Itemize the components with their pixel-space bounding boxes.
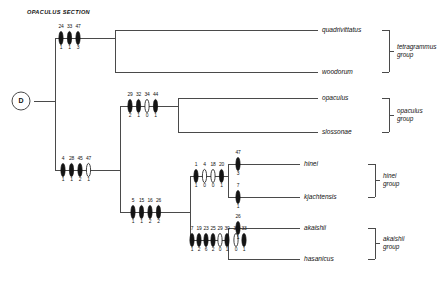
char-num-20: 20 — [215, 162, 229, 167]
group-name-opaculus: opaculus — [397, 107, 423, 114]
group-suffix-opaculus: group — [397, 115, 413, 122]
char-val-26a: 2 — [152, 219, 166, 224]
char-mark-29a — [128, 99, 132, 112]
char-num-kjachtensis-7: 7 — [231, 183, 245, 188]
char-num-47: 47 — [71, 24, 85, 29]
char-num-44: 44 — [149, 92, 163, 97]
char-mark-4a — [61, 163, 65, 176]
char-val-44: 1 — [149, 113, 163, 118]
char-val-33b: 1 — [237, 247, 251, 252]
group-label-hinei: hinei group — [383, 172, 399, 188]
root-node-label: D — [14, 94, 28, 108]
group-suffix-tetragrammus: group — [397, 51, 413, 58]
char-mark-1 — [194, 169, 198, 182]
char-num-26a: 26 — [152, 198, 166, 203]
char-val-hinei-47: 3 — [231, 171, 245, 176]
group-label-tetragrammus: tetragrammus group — [397, 43, 436, 59]
section-title: OPACULUS SECTION — [27, 9, 90, 15]
group-name-akaishii: akaishii — [383, 235, 404, 242]
taxon-label-opaculus: opaculus — [322, 94, 348, 101]
char-mark-25 — [211, 233, 215, 246]
char-val-akaishii-26: 1 — [231, 235, 245, 240]
char-mark-33 — [67, 31, 71, 44]
cladogram-figure: OPACULUS SECTION D 24 33 47 1 1 3 29 32 … — [0, 0, 448, 281]
char-mark-30 — [225, 233, 229, 246]
char-mark-32 — [136, 99, 140, 112]
taxon-label-hasanicus: hasanicus — [304, 255, 334, 262]
cladogram-svg — [0, 0, 448, 281]
char-mark-16 — [148, 205, 152, 218]
char-mark-28 — [69, 163, 73, 176]
char-mark-19 — [197, 233, 201, 246]
char-mark-15 — [139, 205, 143, 218]
taxon-label-slossonae: slossonae — [322, 128, 352, 135]
char-mark-24 — [59, 31, 63, 44]
group-label-akaishii: akaishii group — [383, 235, 404, 251]
char-mark-23 — [204, 233, 208, 246]
char-val-47b: 1 — [82, 177, 96, 182]
char-num-47b: 47 — [82, 156, 96, 161]
group-name-tetragrammus: tetragrammus — [397, 43, 436, 50]
group-suffix-hinei: group — [383, 180, 399, 187]
char-mark-45 — [78, 163, 82, 176]
taxon-label-hinei: hinei — [304, 160, 318, 167]
char-mark-20 — [219, 169, 223, 182]
char-mark-26a — [156, 205, 160, 218]
char-val-47: 3 — [71, 45, 85, 50]
char-mark-5 — [131, 205, 135, 218]
char-num-akaishii-26: 26 — [231, 214, 245, 219]
char-mark-18 — [211, 169, 215, 182]
char-mark-kjachtensis-7 — [236, 190, 240, 203]
char-mark-44 — [153, 99, 157, 112]
char-mark-hinei-47 — [236, 157, 240, 170]
taxon-label-akaishii: akaishii — [304, 224, 326, 231]
char-mark-29b — [218, 233, 222, 246]
char-mark-47 — [76, 31, 80, 44]
taxon-label-kjachtensis: kjachtensis — [304, 193, 337, 200]
char-num-33b: 33 — [237, 226, 251, 231]
char-mark-7a — [190, 233, 194, 246]
group-label-opaculus: opaculus group — [397, 107, 423, 123]
group-suffix-akaishii: group — [383, 243, 399, 250]
char-val-20: 1 — [215, 183, 229, 188]
taxon-label-woodorum: woodorum — [322, 68, 353, 75]
char-mark-4b — [202, 169, 206, 182]
char-val-kjachtensis-7: 1 — [231, 204, 245, 209]
char-mark-34 — [145, 99, 149, 112]
char-num-hinei-47: 47 — [231, 150, 245, 155]
group-name-hinei: hinei — [383, 172, 397, 179]
character-marks — [59, 31, 246, 246]
char-mark-47b — [86, 163, 90, 176]
taxon-label-quadrivittatus: quadrivittatus — [322, 26, 361, 33]
